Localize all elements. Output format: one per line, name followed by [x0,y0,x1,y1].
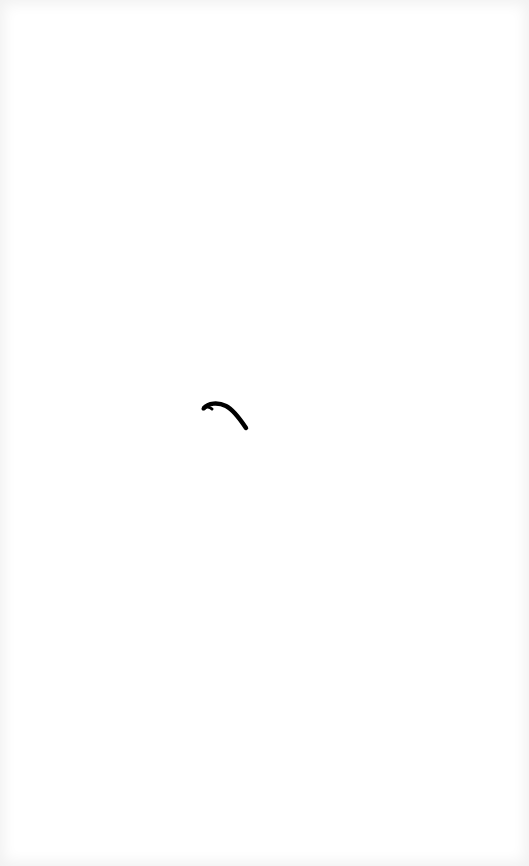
loading-spinner-icon [200,400,250,432]
loading-screen: loading [0,0,529,866]
loading-status: loading [0,0,1,1]
loading-spinner [200,400,250,432]
